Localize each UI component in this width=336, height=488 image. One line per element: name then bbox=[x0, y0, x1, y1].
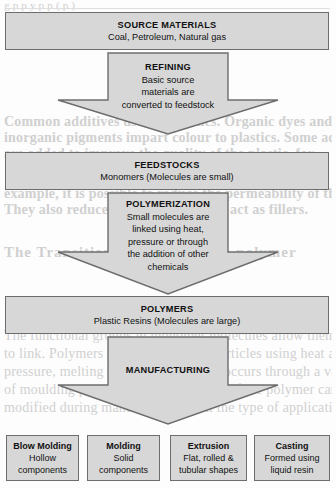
node-polymers: POLYMERS Plastic Resins (Molecules are l… bbox=[5, 296, 329, 334]
small-box-line: Flat, rolled & bbox=[183, 452, 234, 464]
node-subtitle: Coal, Petroleum, Natural gas bbox=[108, 31, 226, 44]
node-subtitle: Plastic Resins (Molecules are large) bbox=[94, 315, 241, 328]
node-molding: Molding Solid components bbox=[87, 435, 160, 481]
plastics-flow-diagram: SOURCE MATERIALS Coal, Petroleum, Natura… bbox=[0, 0, 336, 488]
small-box-title: Extrusion bbox=[188, 440, 230, 452]
small-box-title: Casting bbox=[275, 440, 308, 452]
arrow-line: linked using heat, bbox=[56, 223, 280, 236]
arrow-title: POLYMERIZATION bbox=[56, 198, 280, 211]
small-box-line: components bbox=[99, 464, 148, 476]
node-blow-molding: Blow Molding Hollow components bbox=[6, 435, 79, 481]
small-box-title: Molding bbox=[106, 440, 141, 452]
small-box-line: Solid bbox=[113, 452, 133, 464]
node-casting: Casting Formed using liquid resin bbox=[254, 435, 330, 481]
small-box-line: components bbox=[18, 464, 67, 476]
arrow-polymerization: POLYMERIZATION Small molecules are linke… bbox=[56, 192, 280, 296]
arrow-line: the addition of other bbox=[56, 248, 280, 261]
small-box-line: liquid resin bbox=[270, 464, 313, 476]
small-box-line: Formed using bbox=[264, 452, 319, 464]
arrow-title: MANUFACTURING bbox=[56, 364, 280, 377]
arrow-manufacturing: MANUFACTURING bbox=[56, 336, 280, 426]
arrow-title: REFINING bbox=[56, 61, 280, 74]
node-subtitle: Monomers (Molecules are small) bbox=[100, 171, 233, 184]
small-box-line: tubular shapes bbox=[179, 464, 238, 476]
arrow-line: chemicals bbox=[56, 261, 280, 274]
node-extrusion: Extrusion Flat, rolled & tubular shapes bbox=[170, 435, 247, 481]
node-source-materials: SOURCE MATERIALS Coal, Petroleum, Natura… bbox=[5, 12, 329, 50]
node-title: FEEDSTOCKS bbox=[134, 159, 199, 171]
node-feedstocks: FEEDSTOCKS Monomers (Molecules are small… bbox=[5, 152, 329, 190]
small-box-line: Hollow bbox=[29, 452, 56, 464]
arrow-line: Basic source bbox=[56, 74, 280, 87]
node-title: SOURCE MATERIALS bbox=[118, 19, 217, 31]
diagram-page: g p p y p p ( p ) Common additives used … bbox=[0, 0, 336, 488]
node-title: POLYMERS bbox=[141, 303, 194, 315]
arrow-line: converted to feedstock bbox=[56, 99, 280, 112]
small-box-title: Blow Molding bbox=[13, 440, 72, 452]
arrow-line: materials are bbox=[56, 86, 280, 99]
arrow-manufacturing-shape bbox=[56, 336, 280, 426]
arrow-line: pressure or through bbox=[56, 236, 280, 249]
arrow-line: Small molecules are bbox=[56, 211, 280, 224]
arrow-refining: REFINING Basic source materials are conv… bbox=[56, 52, 280, 136]
